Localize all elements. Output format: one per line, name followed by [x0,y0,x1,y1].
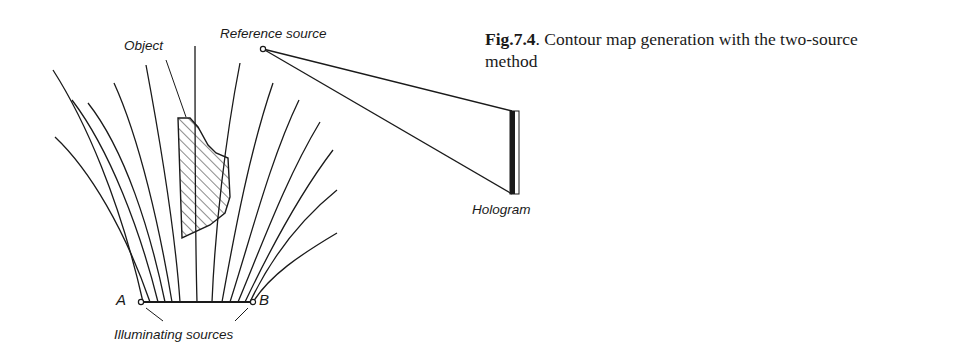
object-shape [178,118,230,238]
source-a-leader [146,308,163,321]
source-a-label: A [116,292,126,307]
illuminating-sources-label: Illuminating sources [114,328,233,342]
source-b-leader [235,308,248,321]
reference-source-label: Reference source [220,27,327,41]
hologram-label: Hologram [472,203,531,217]
reference-beam [263,49,512,194]
source-b-point [250,299,255,304]
figure-caption-text: . Contour map generation with the two-so… [485,29,858,71]
figure-caption: Fig.7.4. Contour map generation with the… [485,28,905,72]
hologram-emulsion [510,111,515,194]
object-leader-line [166,60,186,117]
object-label: Object [124,39,163,53]
reference-source-point [260,46,265,51]
figure-number: Fig.7.4 [485,29,536,49]
source-b-label: B [259,292,269,307]
source-a-point [138,299,143,304]
